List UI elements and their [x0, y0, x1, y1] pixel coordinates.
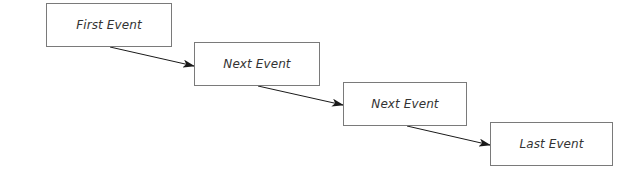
event-label: Last Event [519, 137, 583, 151]
event-box-next-1: Next Event [194, 42, 320, 86]
event-box-last: Last Event [490, 122, 613, 166]
arrow-next-to-last [407, 126, 490, 145]
event-box-first: First Event [46, 3, 172, 47]
event-flow-diagram: First Event Next Event Next Event Last E… [0, 0, 640, 176]
arrow-next-to-next [258, 86, 343, 105]
event-label: Next Event [223, 57, 290, 71]
event-label: First Event [76, 18, 141, 32]
event-label: Next Event [371, 97, 438, 111]
event-box-next-2: Next Event [343, 82, 467, 126]
arrow-first-to-next [110, 47, 194, 66]
